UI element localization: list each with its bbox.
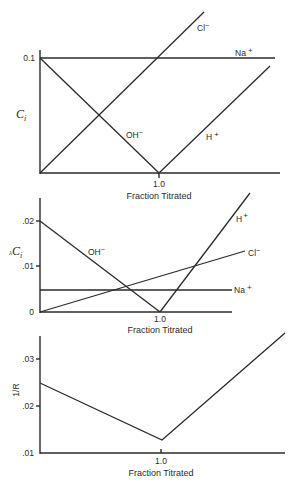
chart-equivalent-conductance: .02 .01 0 1.0 Fraction Titrated λCi OH− … xyxy=(8,193,260,335)
x-axis-label: Fraction Titrated xyxy=(126,191,191,201)
y-tick-label: .02 xyxy=(22,216,34,226)
y-tick-label: .02 xyxy=(22,401,34,411)
x-tick-label: 1.0 xyxy=(155,456,167,466)
x-tick-label: 1.0 xyxy=(153,179,165,189)
series-conductance xyxy=(40,333,285,440)
label-h: H+ xyxy=(206,130,219,142)
label-cl: Cl− xyxy=(197,22,209,33)
x-axis-label: Fraction Titrated xyxy=(127,325,192,335)
y-axis-label: 1/R xyxy=(11,383,21,396)
label-h: H+ xyxy=(236,211,248,224)
titration-charts: 0.1 1.0 Fraction Titrated Ci Cl− Na+ OH−… xyxy=(0,0,292,480)
label-na: Na+ xyxy=(234,283,252,295)
y-tick-label: .03 xyxy=(22,354,34,364)
x-tick-label: 1.0 xyxy=(154,314,166,324)
chart-conductance: .03 .02 .01 1.0 Fraction Titrated 1/R xyxy=(11,333,285,478)
label-cl: Cl− xyxy=(248,247,260,258)
y-tick-label: .01 xyxy=(22,261,34,271)
series-cl xyxy=(40,12,204,173)
series-oh xyxy=(40,221,160,312)
chart-concentration: 0.1 1.0 Fraction Titrated Ci Cl− Na+ OH−… xyxy=(16,12,280,201)
y-axis-label: λCi xyxy=(8,244,22,260)
y-tick-label: 0.1 xyxy=(23,53,35,63)
label-oh: OH− xyxy=(126,129,143,140)
x-axis-label: Fraction Titrated xyxy=(128,468,193,478)
label-oh: OH− xyxy=(88,246,105,257)
y-tick-label: .01 xyxy=(22,448,34,458)
series-h xyxy=(159,66,270,173)
series-cl xyxy=(40,251,245,312)
y-tick-label: 0 xyxy=(29,307,34,317)
label-na: Na+ xyxy=(235,46,253,58)
y-axis-label: Ci xyxy=(16,107,26,123)
